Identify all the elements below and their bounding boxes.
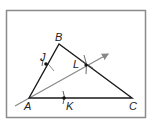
label-k: K [66,100,74,112]
label-c: C [129,100,137,112]
label-j: J [39,51,46,63]
label-b: B [55,31,62,43]
diagram-canvas: B J L A K C [0,0,151,121]
point-l [84,63,87,66]
label-l: L [73,58,79,70]
label-a: A [23,100,31,112]
arc-mark-j-2 [48,64,54,71]
